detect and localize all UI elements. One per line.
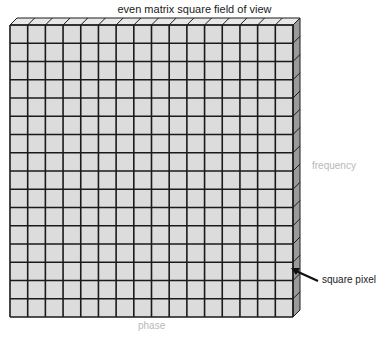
pixel-matrix [0,0,389,348]
phase-axis-label: phase [138,320,165,331]
frequency-axis-label: frequency [312,160,356,171]
square-pixel-label: square pixel [322,274,376,285]
